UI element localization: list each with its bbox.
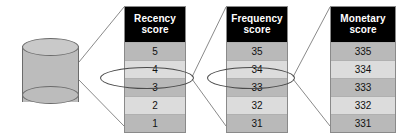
connector-recency-to-frequency-top <box>192 7 226 77</box>
monetary-row-334[interactable]: 334 <box>331 60 395 78</box>
cylinder-bottom-ellipse <box>22 86 79 104</box>
frequency-row-32[interactable]: 32 <box>227 96 287 114</box>
recency-table-header: Recency score <box>125 7 185 42</box>
recency-row-1[interactable]: 1 <box>125 114 185 132</box>
connector-frequency-to-monetary-bottom <box>293 79 330 126</box>
recency-row-5[interactable]: 5 <box>125 42 185 60</box>
database-cylinder-icon <box>22 38 79 110</box>
monetary-header-line1: Monetary <box>331 13 395 24</box>
monetary-score-table: Monetary score 335 334 333 332 331 <box>330 6 396 133</box>
recency-highlight-ellipse <box>100 67 194 89</box>
monetary-row-335[interactable]: 335 <box>331 42 395 60</box>
connector-db-to-recency-bottom <box>79 80 124 126</box>
frequency-table-header: Frequency score <box>227 7 287 42</box>
connector-db-to-recency-top <box>79 7 124 62</box>
frequency-row-31[interactable]: 31 <box>227 114 287 132</box>
recency-header-line2: score <box>125 24 185 35</box>
monetary-table-header: Monetary score <box>331 7 395 42</box>
monetary-row-332[interactable]: 332 <box>331 96 395 114</box>
frequency-row-35[interactable]: 35 <box>227 42 287 60</box>
frequency-highlight-ellipse <box>207 67 295 89</box>
monetary-row-333[interactable]: 333 <box>331 78 395 96</box>
recency-row-2[interactable]: 2 <box>125 96 185 114</box>
cylinder-top-ellipse <box>22 38 79 56</box>
rfm-score-diagram: Recency score 5 4 3 2 1 Frequency score … <box>0 0 408 134</box>
recency-header-line1: Recency <box>125 13 185 24</box>
monetary-row-331[interactable]: 331 <box>331 114 395 132</box>
connector-frequency-to-monetary-top <box>293 7 330 77</box>
monetary-header-line2: score <box>331 24 395 35</box>
frequency-header-line2: score <box>227 24 287 35</box>
frequency-header-line1: Frequency <box>227 13 287 24</box>
